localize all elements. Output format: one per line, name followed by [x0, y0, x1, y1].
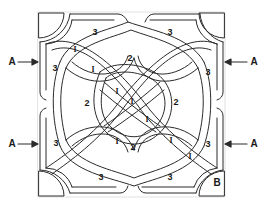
arrow-head-left-bottom [32, 141, 38, 147]
arrow-head-left-top [32, 59, 38, 65]
region-label: 3 [92, 28, 97, 37]
region-label: I [91, 66, 94, 74]
region-label: 3 [98, 173, 103, 182]
region-label: I [115, 138, 118, 146]
region-label: 3 [52, 64, 57, 73]
region-label: 3 [167, 173, 172, 182]
region-label: I [130, 98, 133, 106]
arrow-label-right-bottom: A [250, 139, 257, 149]
region-label: 3 [53, 139, 58, 148]
region-label: I [188, 153, 191, 161]
arrow-head-right-top [225, 59, 231, 65]
arrow-label-left-top: A [8, 57, 15, 67]
region-label: I [73, 46, 76, 54]
region-label: I [169, 137, 172, 145]
region-label: 3 [205, 140, 210, 149]
region-label: I [115, 88, 118, 96]
region-label: 2 [84, 99, 89, 108]
arrow-head-right-bottom [225, 141, 231, 147]
region-label: I [145, 116, 148, 124]
region-label: 2 [127, 54, 132, 63]
region-label: 3 [167, 28, 172, 37]
corner-label-b: B [213, 178, 220, 188]
region-label: 2 [130, 143, 135, 152]
arrow-label-left-bottom: A [8, 139, 15, 149]
region-label: 3 [205, 68, 210, 77]
arrow-label-right-top: A [250, 57, 257, 67]
region-label: 2 [173, 98, 178, 107]
